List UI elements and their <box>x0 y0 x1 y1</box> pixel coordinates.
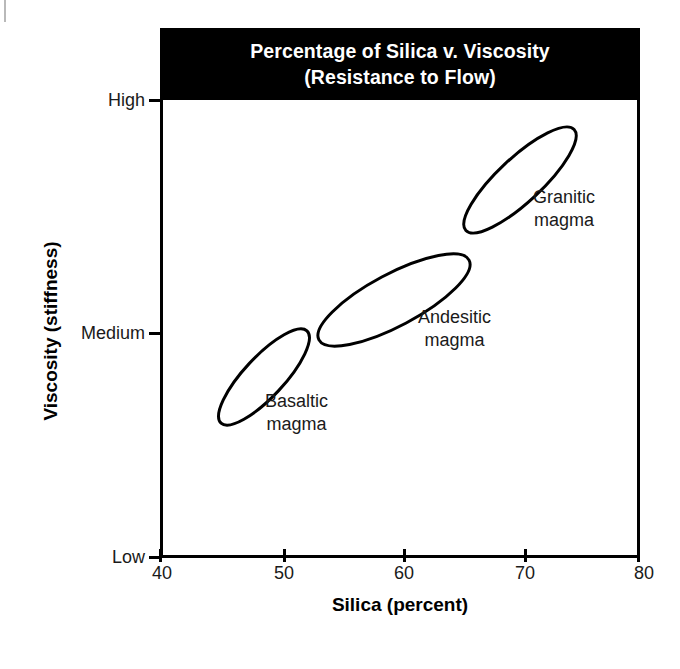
figure-container: Percentage of Silica v. Viscosity (Resis… <box>0 0 680 669</box>
chart-title-line-2: (Resistance to Flow) <box>304 64 496 90</box>
y-axis-title: Viscosity (stiffness) <box>40 181 62 481</box>
label-granitic-line-1: Granitic <box>533 186 595 209</box>
ytick-label-low: Low <box>0 547 145 568</box>
ytick-label-medium: Medium <box>0 323 145 344</box>
xtick-label-40: 40 <box>152 563 172 584</box>
xtick-mark-80 <box>637 549 640 562</box>
label-granitic-magma: Granitic magma <box>533 186 595 232</box>
xtick-mark-60 <box>403 549 406 562</box>
clipped-caption-text <box>110 0 410 1</box>
ytick-mark-medium <box>149 332 162 335</box>
label-andesitic-line-2: magma <box>418 329 491 352</box>
label-basaltic-line-2: magma <box>265 413 328 436</box>
chart-title-bar: Percentage of Silica v. Viscosity (Resis… <box>160 28 640 100</box>
ytick-mark-high <box>149 99 162 102</box>
label-andesitic-line-1: Andesitic <box>418 306 491 329</box>
xtick-label-70: 70 <box>515 563 535 584</box>
xtick-label-80: 80 <box>634 563 654 584</box>
label-basaltic-line-1: Basaltic <box>265 390 328 413</box>
magma-group-ellipses <box>160 100 640 558</box>
chart-title-line-1: Percentage of Silica v. Viscosity <box>250 38 550 64</box>
label-granitic-line-2: magma <box>533 209 595 232</box>
xtick-mark-40 <box>159 549 162 562</box>
ytick-label-high: High <box>0 90 145 111</box>
label-andesitic-magma: Andesitic magma <box>418 306 491 352</box>
x-axis-title: Silica (percent) <box>160 594 640 616</box>
xtick-mark-50 <box>283 549 286 562</box>
page-edge-line <box>4 0 6 22</box>
label-basaltic-magma: Basaltic magma <box>265 390 328 436</box>
xtick-label-60: 60 <box>394 563 414 584</box>
xtick-mark-70 <box>524 549 527 562</box>
xtick-label-50: 50 <box>274 563 294 584</box>
